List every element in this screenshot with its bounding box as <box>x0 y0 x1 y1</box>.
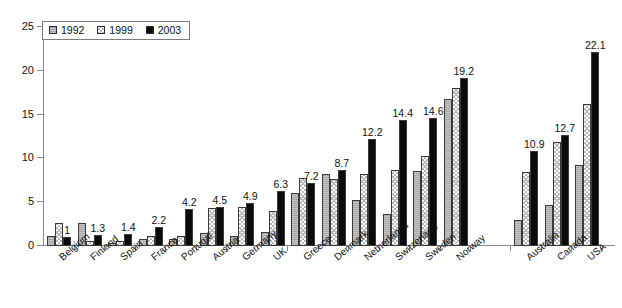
legend-label: 2003 <box>158 24 181 36</box>
bar-usa-2003: 22.1 <box>591 52 599 246</box>
x-axis-labels: BelgiumFinlandSpainFrancePortugalAustria… <box>44 252 615 308</box>
x-axis-label-australia: Australia <box>511 252 542 308</box>
bar-chart: 2520151050 199219992003 11.31.42.24.24.5… <box>0 0 622 308</box>
bar-group: 1 <box>44 26 75 246</box>
bar-value-label: 1.3 <box>90 223 105 234</box>
bar-group: 8.7 <box>319 26 350 246</box>
x-axis-label-usa: USA <box>572 252 603 308</box>
bar-group: 4.5 <box>197 26 228 246</box>
bar-value-label: 1.4 <box>121 222 136 233</box>
x-axis-label-uk: UK <box>258 252 289 308</box>
bar-belgium-1999 <box>55 223 63 246</box>
legend-item-1999[interactable]: 1999 <box>97 24 132 36</box>
bar-group: 12.7 <box>542 26 573 246</box>
bar-denmark-2003: 8.7 <box>338 170 346 246</box>
bar-australia-2003: 10.9 <box>530 151 538 246</box>
bar-group: 10.9 <box>511 26 542 246</box>
legend-swatch-icon <box>97 26 105 34</box>
y-axis-tick <box>37 114 44 115</box>
x-axis-label-portugal: Portugal <box>166 252 197 308</box>
bar-group: 6.3 <box>258 26 289 246</box>
bar-canada-2003: 12.7 <box>561 135 569 246</box>
x-axis-label-spain: Spain <box>105 252 136 308</box>
y-axis-tick-label: 20 <box>6 65 34 75</box>
x-axis-label-greece: Greece <box>288 252 319 308</box>
bar-value-label: 4.2 <box>182 197 197 208</box>
x-axis-label-switzerland: Switzerland <box>380 252 411 308</box>
x-axis-label-netherlands: Netherlands <box>349 252 380 308</box>
y-axis-tick-label: 0 <box>6 240 34 250</box>
group-separator <box>471 26 511 246</box>
bar-group: 1.3 <box>75 26 106 246</box>
x-axis-label-austria: Austria <box>197 252 228 308</box>
bar-australia-1999 <box>522 172 530 246</box>
bar-germany-2003: 4.9 <box>246 203 254 246</box>
bar-value-label: 19.2 <box>454 66 474 77</box>
bar-group: 4.9 <box>227 26 258 246</box>
x-axis-label-norway: Norway <box>441 252 472 308</box>
y-axis-tick <box>37 70 44 71</box>
bar-group: 7.2 <box>288 26 319 246</box>
chart-legend: 199219992003 <box>42 21 190 40</box>
y-axis-tick-label: 10 <box>6 152 34 162</box>
bar-value-label: 6.3 <box>273 179 288 190</box>
bar-norway-2003: 19.2 <box>460 78 468 246</box>
y-axis-tick-label: 5 <box>6 196 34 206</box>
bar-norway-1999 <box>452 88 460 246</box>
bar-group: 19.2 <box>441 26 472 246</box>
x-axis-label-spacer <box>471 252 511 308</box>
legend-label: 1999 <box>109 24 132 36</box>
y-axis-tick <box>37 201 44 202</box>
x-axis-label-sweden: Sweden <box>410 252 441 308</box>
bar-group: 14.6 <box>410 26 441 246</box>
bar-uk-2003: 6.3 <box>277 191 285 246</box>
legend-item-1992[interactable]: 1992 <box>49 24 84 36</box>
legend-label: 1992 <box>61 24 84 36</box>
y-axis-tick <box>37 245 44 246</box>
bar-group: 12.2 <box>349 26 380 246</box>
bar-value-label: 2.2 <box>151 215 166 226</box>
x-axis-label-germany: Germany <box>227 252 258 308</box>
x-axis-label-denmark: Denmark <box>319 252 350 308</box>
bar-greece-1999 <box>299 178 307 246</box>
y-axis-tick-label: 15 <box>6 109 34 119</box>
x-axis-label-finland: Finland <box>75 252 106 308</box>
bar-value-label: 7.2 <box>304 171 319 182</box>
bar-value-label: 4.5 <box>212 195 227 206</box>
bar-group: 14.4 <box>380 26 411 246</box>
bar-denmark-1999 <box>330 179 338 246</box>
bar-austria-2003: 4.5 <box>216 207 224 246</box>
bar-groups: 11.31.42.24.24.54.96.37.28.712.214.414.6… <box>44 26 615 246</box>
bar-value-label: 8.7 <box>334 158 349 169</box>
bar-portugal-2003: 4.2 <box>185 209 193 246</box>
bar-value-label: 4.9 <box>243 191 258 202</box>
bar-netherlands-2003: 12.2 <box>368 139 376 246</box>
y-axis-tick-label: 25 <box>6 21 34 31</box>
bar-value-label: 1 <box>64 225 70 236</box>
legend-item-2003[interactable]: 2003 <box>146 24 181 36</box>
bar-group: 2.2 <box>136 26 167 246</box>
bar-group: 4.2 <box>166 26 197 246</box>
bar-australia-1992 <box>514 220 522 246</box>
bar-group: 22.1 <box>572 26 603 246</box>
x-axis-label-france: France <box>136 252 167 308</box>
bar-greece-1992 <box>291 193 299 246</box>
legend-swatch-icon <box>146 26 154 34</box>
bar-france-1999 <box>147 236 155 246</box>
legend-swatch-icon <box>49 26 57 34</box>
bar-value-label: 22.1 <box>585 40 605 51</box>
bar-group: 1.4 <box>105 26 136 246</box>
y-axis-tick <box>37 157 44 158</box>
bar-greece-2003: 7.2 <box>307 183 315 246</box>
x-axis-label-belgium: Belgium <box>44 252 75 308</box>
bar-belgium-1992 <box>47 236 55 247</box>
bar-usa-1999 <box>583 104 591 246</box>
bar-norway-1992 <box>444 99 452 246</box>
x-axis-label-canada: Canada <box>542 252 573 308</box>
